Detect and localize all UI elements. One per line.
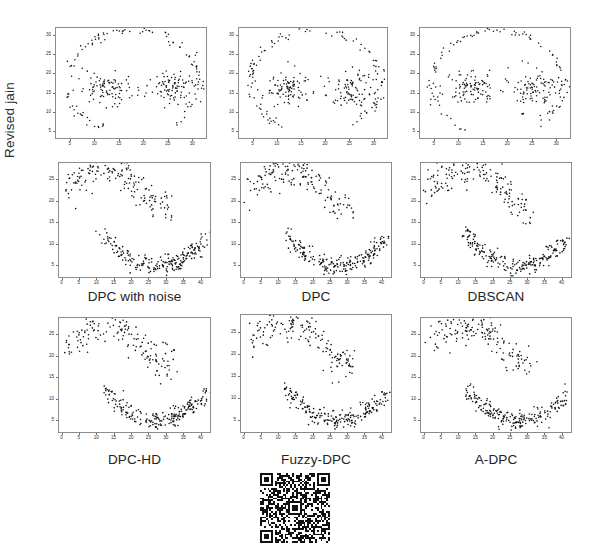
caption-dpc-hd: DPC-HD [58,452,211,467]
y-tick-label: 10 [226,395,236,400]
x-tick-label: 30 [345,281,350,286]
y-tick-label: 20 [226,351,236,356]
x-tick-label: 40 [379,281,384,286]
x-tick-label: 25 [507,281,512,286]
y-tick-mark [418,201,420,202]
y-tick-label: 25 [406,177,416,182]
plot-frame [238,27,388,139]
x-tick-label: 10 [275,436,280,441]
plot-frame [58,162,211,278]
y-tick-mark [418,399,420,400]
x-tick-label: 35 [542,281,547,286]
y-tick-label: 25 [406,332,416,337]
x-tick-label: 0 [242,281,245,286]
x-tick-label: 25 [529,142,534,147]
y-tick-label: 15 [226,373,236,378]
x-tick-label: 35 [181,436,186,441]
x-tick-label: 10 [94,281,99,286]
x-tick-label: 30 [163,436,168,441]
x-tick-label: 35 [542,436,547,441]
x-tick-label: 5 [439,281,442,286]
panel-r3c2 [240,314,392,433]
y-tick-label: 15 [44,220,54,225]
scatter-canvas [56,28,206,138]
y-tick-label: 5 [405,129,415,134]
y-tick-label: 15 [406,220,416,225]
x-tick-label: 40 [559,436,564,441]
x-tick-label: 15 [473,281,478,286]
x-tick-label: 10 [456,142,461,147]
x-tick-label: 30 [371,142,376,147]
y-tick-label: 15 [406,375,416,380]
x-tick-label: 25 [327,436,332,441]
y-tick-label: 10 [406,241,416,246]
x-tick-label: 0 [422,436,425,441]
y-tick-label: 10 [44,396,54,401]
y-tick-label: 20 [406,198,416,203]
y-tick-label: 15 [44,375,54,380]
y-tick-mark [238,222,240,223]
y-tick-mark [236,112,238,113]
qr-code-icon [258,473,332,543]
x-tick-label: 10 [92,142,97,147]
panel-r1c3 [419,27,571,139]
x-tick-label: 0 [422,281,425,286]
y-tick-mark [56,399,58,400]
x-tick-label: 20 [310,436,315,441]
x-tick-label: 5 [432,142,435,147]
x-tick-label: 20 [323,142,328,147]
x-tick-label: 0 [60,281,63,286]
x-tick-label: 5 [251,142,254,147]
y-tick-mark [238,201,240,202]
x-tick-label: 5 [78,281,81,286]
y-tick-label: 5 [226,418,236,423]
y-tick-mark [418,420,420,421]
y-tick-label: 5 [406,418,416,423]
y-tick-label: 10 [405,110,415,115]
y-tick-label: 20 [44,353,54,358]
caption-dpc-with-noise: DPC with noise [58,289,211,304]
x-tick-label: 10 [455,436,460,441]
scatter-canvas [420,28,570,138]
x-tick-label: 15 [480,142,485,147]
y-tick-mark [53,54,55,55]
x-tick-label: 15 [473,436,478,441]
y-tick-label: 5 [226,263,236,268]
y-tick-mark [418,265,420,266]
x-tick-label: 5 [68,142,71,147]
y-tick-mark [417,112,419,113]
y-tick-mark [418,179,420,180]
x-tick-label: 40 [559,281,564,286]
y-tick-mark [418,334,420,335]
y-tick-label: 25 [44,177,54,182]
y-tick-label: 30 [405,32,415,37]
y-tick-label: 5 [41,129,51,134]
y-tick-label: 25 [224,52,234,57]
y-tick-label: 15 [226,220,236,225]
scatter-canvas [241,163,391,277]
y-tick-mark [238,398,240,399]
panel-r3c3 [420,317,572,433]
plot-frame [420,162,572,278]
x-tick-label: 25 [347,142,352,147]
y-tick-mark [418,356,420,357]
qr-code-svg [258,473,332,543]
y-tick-mark [56,356,58,357]
y-tick-mark [56,244,58,245]
y-tick-label: 10 [44,241,54,246]
y-tick-label: 15 [224,90,234,95]
scatter-canvas [239,28,387,138]
y-tick-mark [53,93,55,94]
y-tick-label: 25 [44,332,54,337]
x-tick-label: 35 [181,281,186,286]
panel-r2c1 [58,162,211,278]
y-tick-label: 5 [406,263,416,268]
x-tick-label: 30 [190,142,195,147]
y-tick-mark [53,35,55,36]
y-tick-mark [238,332,240,333]
y-tick-mark [56,179,58,180]
x-tick-label: 25 [327,281,332,286]
scatter-canvas [241,315,391,432]
x-tick-label: 20 [141,142,146,147]
y-tick-label: 20 [44,198,54,203]
